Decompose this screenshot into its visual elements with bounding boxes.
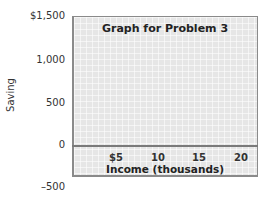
x-axis-label: Income (thousands): [72, 163, 258, 175]
y-tick-1000: 1,000: [36, 54, 65, 65]
y-tick-minus-500: –500: [41, 181, 65, 192]
x-tick-5: $5: [109, 152, 123, 163]
y-tick-0: 0: [59, 139, 65, 150]
y-tick-1500: $1,500: [30, 10, 65, 21]
x-tick-20: 20: [234, 152, 248, 163]
x-axis-zero-line: [72, 145, 258, 147]
chart-title: Graph for Problem 3: [72, 22, 258, 35]
y-tick-500: 500: [46, 97, 65, 108]
x-tick-10: 10: [151, 152, 165, 163]
x-tick-15: 15: [192, 152, 206, 163]
y-axis-label: Saving: [5, 78, 16, 112]
